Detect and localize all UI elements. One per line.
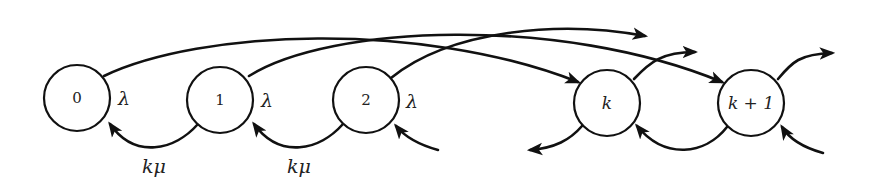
edge-k+1-to-out-arrow <box>778 53 832 79</box>
state-node-2: 2 <box>333 67 399 133</box>
edge-2-to-1-arrow <box>254 124 343 147</box>
rate-label-lambda-0: λ <box>117 87 130 109</box>
state-node-1: 1 <box>187 67 253 133</box>
edge-1-to-0-arrow <box>110 124 198 147</box>
rate-label-kmu-1: kμ <box>287 155 311 177</box>
state-label: 0 <box>72 89 82 107</box>
edge-k-to-in-arrow <box>530 126 582 150</box>
state-label: 2 <box>361 91 371 109</box>
rate-label-lambda-2: λ <box>405 90 418 112</box>
edge-in-to-2-arrow <box>396 126 438 150</box>
edge-in-to-k+1-arrow <box>782 127 823 153</box>
state-label: 1 <box>215 91 225 109</box>
edge-k+1-to-k-arrow <box>637 126 727 150</box>
edge-1-to-k+1-arrow <box>249 35 722 82</box>
rate-label-lambda-1: λ <box>260 89 273 111</box>
state-label: k + 1 <box>728 93 774 113</box>
rate-label-kmu-0: kμ <box>142 155 166 177</box>
state-node-k+1: k + 1 <box>718 70 784 136</box>
state-node-0: 0 <box>44 65 110 131</box>
state-node-k: k <box>574 70 640 136</box>
state-label: k <box>602 93 612 113</box>
markov-chain-diagram: 012kk + 1 λλλkμkμ <box>0 0 879 189</box>
